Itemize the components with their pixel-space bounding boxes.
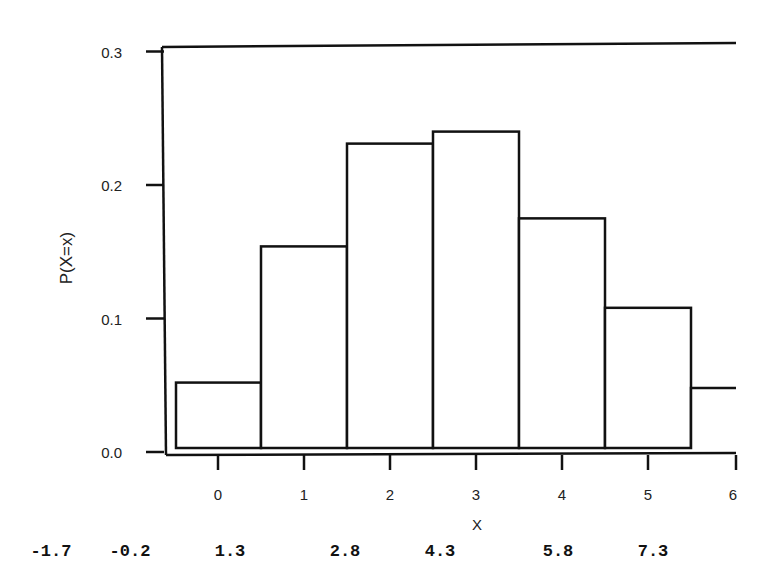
- bar-0: [176, 383, 261, 448]
- y-tick-label: 0.2: [101, 177, 122, 194]
- x-axis-line: [166, 453, 736, 455]
- secondary-x-label: 7.3: [638, 542, 669, 561]
- secondary-x-label: 1.3: [215, 542, 246, 561]
- x-axis-title: X: [472, 516, 482, 533]
- top-border-line: [162, 43, 736, 47]
- y-axis-title: P(X=x): [57, 232, 76, 284]
- secondary-x-label: -0.2: [110, 542, 151, 561]
- secondary-x-label: 5.8: [543, 542, 574, 561]
- x-tick-label: 6: [729, 486, 737, 503]
- y-axis-line: [162, 47, 166, 455]
- probability-histogram: 0.00.10.20.3 0123456 P(X=x) X -1.7-0.21.…: [0, 0, 778, 581]
- x-tick-label: 4: [558, 486, 566, 503]
- y-tick-label: 0.3: [101, 44, 122, 61]
- secondary-x-label: 2.8: [330, 542, 361, 561]
- x-tick-label: 0: [214, 486, 222, 503]
- bars: [176, 132, 736, 448]
- bar-2: [347, 144, 433, 448]
- y-axis-ticks: 0.00.10.20.3: [101, 44, 164, 462]
- secondary-x-labels: -1.7-0.21.32.84.35.87.3: [31, 542, 669, 561]
- bar-3: [433, 132, 519, 448]
- x-tick-label: 3: [472, 486, 480, 503]
- bar-4: [519, 218, 605, 448]
- secondary-x-label: -1.7: [31, 542, 72, 561]
- secondary-x-label: 4.3: [425, 542, 456, 561]
- x-tick-label: 5: [644, 486, 652, 503]
- x-axis-ticks: 0123456: [214, 455, 737, 503]
- bar-1: [261, 246, 347, 448]
- x-tick-label: 2: [386, 486, 394, 503]
- bar-6: [691, 388, 736, 448]
- x-tick-label: 1: [300, 486, 308, 503]
- y-tick-label: 0.1: [101, 311, 122, 328]
- y-tick-label: 0.0: [101, 444, 122, 461]
- bar-5: [605, 308, 691, 448]
